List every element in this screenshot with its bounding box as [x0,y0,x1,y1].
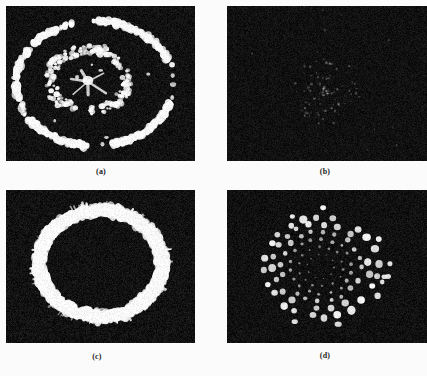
panel-a-image [6,6,195,161]
panel-a-caption: (a) [81,167,121,177]
figure-panel-c [6,190,195,343]
panel-d-caption: (d) [305,351,345,361]
figure-panel-d [227,190,427,343]
panel-c-image [6,190,195,343]
panel-c-caption: (c) [77,352,117,362]
panel-b-caption: (b) [305,167,345,177]
panel-d-image [227,190,427,343]
panel-b-image [227,6,427,161]
figure-panel-a [6,6,195,161]
figure-plate: (a) (b) (c) (d) [0,0,427,376]
figure-panel-b [227,6,427,161]
